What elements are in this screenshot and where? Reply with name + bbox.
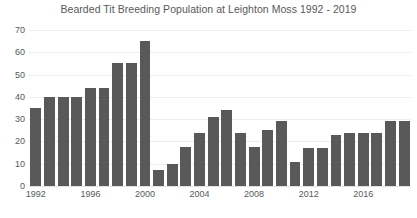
y-axis-tick-label: 10 bbox=[0, 159, 25, 169]
bar bbox=[180, 147, 191, 186]
bar bbox=[99, 88, 110, 186]
x-axis-tick-label: 2004 bbox=[190, 189, 210, 199]
y-axis-tick-label: 60 bbox=[0, 47, 25, 57]
y-axis-tick-label: 0 bbox=[0, 181, 25, 191]
gridline bbox=[29, 75, 411, 76]
gridline bbox=[29, 52, 411, 53]
bar bbox=[249, 147, 260, 186]
bar bbox=[126, 63, 137, 186]
bar bbox=[385, 121, 396, 186]
gridline bbox=[29, 186, 411, 187]
bar bbox=[317, 148, 328, 186]
bar bbox=[194, 133, 205, 186]
bar bbox=[112, 63, 123, 186]
bar bbox=[71, 97, 82, 186]
bar bbox=[331, 135, 342, 186]
x-axis-tick-label: 2012 bbox=[299, 189, 319, 199]
x-axis-tick-label: 1996 bbox=[80, 189, 100, 199]
bar bbox=[58, 97, 69, 186]
bar bbox=[153, 170, 164, 186]
gridline bbox=[29, 30, 411, 31]
x-axis: 1992199620002004200820122016 bbox=[29, 189, 411, 209]
y-axis-tick-label: 30 bbox=[0, 114, 25, 124]
bar bbox=[208, 117, 219, 186]
bar bbox=[399, 121, 410, 186]
bar bbox=[30, 108, 41, 186]
x-axis-tick-label: 2008 bbox=[244, 189, 264, 199]
y-axis-tick-label: 50 bbox=[0, 70, 25, 80]
bar bbox=[303, 148, 314, 186]
y-axis-tick-label: 40 bbox=[0, 92, 25, 102]
bar bbox=[167, 164, 178, 186]
bar-chart: Bearded Tit Breeding Population at Leigh… bbox=[0, 0, 417, 218]
bar bbox=[290, 162, 301, 187]
bar bbox=[140, 41, 151, 186]
y-axis-tick-label: 70 bbox=[0, 25, 25, 35]
bar bbox=[262, 130, 273, 186]
x-axis-tick-label: 2016 bbox=[353, 189, 373, 199]
bar bbox=[235, 133, 246, 186]
y-axis-tick-label: 20 bbox=[0, 136, 25, 146]
bar bbox=[85, 88, 96, 186]
x-axis-tick-label: 1992 bbox=[26, 189, 46, 199]
plot-area bbox=[29, 30, 411, 186]
y-axis: 706050403020100 bbox=[0, 30, 25, 186]
bar bbox=[358, 133, 369, 186]
bar bbox=[221, 110, 232, 186]
x-axis-tick-label: 2000 bbox=[135, 189, 155, 199]
bar bbox=[44, 97, 55, 186]
chart-title: Bearded Tit Breeding Population at Leigh… bbox=[0, 3, 417, 15]
bar bbox=[276, 121, 287, 186]
bar bbox=[344, 133, 355, 186]
bar bbox=[371, 133, 382, 186]
